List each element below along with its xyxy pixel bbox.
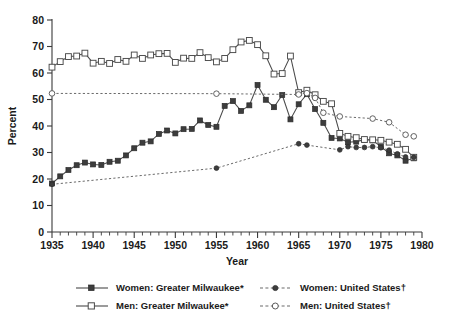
series-marker [181, 55, 187, 61]
series-marker [131, 52, 137, 58]
series-marker [74, 53, 80, 59]
series-marker [403, 132, 409, 138]
legend-entry-men-us[interactable]: Men: United States† [259, 300, 444, 312]
x-tick-label: 1970 [328, 239, 352, 251]
series-marker [403, 146, 409, 152]
series-marker [91, 162, 96, 167]
chart-series [49, 90, 416, 139]
series-marker [58, 174, 63, 179]
series-marker [98, 58, 104, 64]
legend-swatch-dashed-filled-circle [259, 282, 293, 294]
series-marker [288, 53, 294, 59]
series-marker [296, 141, 301, 146]
series-marker [345, 133, 351, 139]
series-marker [387, 148, 392, 153]
series-marker [107, 61, 113, 67]
series-marker [66, 54, 72, 60]
series-marker [189, 126, 194, 131]
series-marker [57, 59, 63, 65]
series-marker [272, 105, 277, 110]
series-marker [124, 153, 129, 158]
x-tick-label: 1965 [287, 239, 311, 251]
series-marker [378, 137, 384, 143]
series-marker [123, 58, 129, 64]
series-marker [280, 92, 285, 97]
series-marker [164, 50, 170, 56]
series-marker [148, 52, 154, 58]
series-marker [304, 143, 309, 148]
legend-entry-women-milwaukee[interactable]: Women: Greater Milwaukee* [75, 282, 259, 294]
x-tick-label: 1960 [246, 239, 270, 251]
series-marker [304, 90, 310, 96]
series-marker [165, 128, 170, 133]
series-marker [205, 55, 211, 61]
chart-plot-area: 0102030405060708019351940194519501955196… [0, 0, 454, 322]
y-tick-label: 80 [32, 14, 44, 26]
series-marker [230, 99, 235, 104]
series-marker [320, 98, 326, 104]
series-marker [156, 51, 162, 57]
series-marker [222, 56, 228, 62]
series-marker [255, 42, 261, 48]
chart-series [50, 82, 417, 186]
y-tick-label: 70 [32, 40, 44, 52]
legend-swatch-solid-open-square [75, 300, 109, 312]
series-marker [239, 108, 244, 113]
series-marker [66, 167, 71, 172]
series-marker [279, 71, 285, 77]
series-marker [337, 131, 343, 137]
series-marker [115, 158, 120, 163]
series-marker [370, 137, 376, 143]
series-marker [115, 57, 121, 63]
series-marker [181, 127, 186, 132]
legend-swatch-dashed-open-circle [259, 300, 293, 312]
x-tick-label: 1975 [369, 239, 393, 251]
series-marker [140, 140, 145, 145]
series-marker [238, 39, 244, 45]
series-marker [346, 144, 351, 149]
series-marker [82, 160, 87, 165]
legend-swatch-solid-filled-square [75, 282, 109, 294]
series-marker [386, 139, 392, 145]
x-axis-title: Year [226, 255, 248, 267]
series-marker [362, 145, 367, 150]
series-marker [90, 60, 96, 66]
series-marker [49, 91, 55, 97]
series-marker [246, 38, 252, 44]
series-marker [395, 151, 400, 156]
legend-entry-men-milwaukee[interactable]: Men: Greater Milwaukee* [75, 300, 259, 312]
legend-row-1: Women: Greater Milwaukee* Women: United … [0, 279, 454, 297]
series-marker [329, 135, 334, 140]
series-marker [230, 47, 236, 53]
legend-label-men-us: Men: United States† [300, 301, 391, 311]
series-marker [386, 119, 392, 125]
series-marker [329, 101, 335, 107]
series-marker [156, 131, 161, 136]
series-marker [321, 120, 326, 125]
series-marker [214, 124, 219, 129]
series-marker [214, 166, 219, 171]
series-marker [296, 92, 302, 98]
series-marker [82, 50, 88, 56]
y-tick-label: 40 [32, 120, 44, 132]
series-marker [271, 71, 277, 77]
series-marker [99, 162, 104, 167]
x-tick-label: 1980 [410, 239, 434, 251]
legend-entry-women-us[interactable]: Women: United States† [259, 282, 444, 294]
series-marker [49, 64, 55, 70]
series-marker [247, 103, 252, 108]
legend-label-men-milwaukee: Men: Greater Milwaukee* [116, 301, 228, 311]
chart-figure: 0102030405060708019351940194519501955196… [0, 0, 454, 322]
legend-row-2: Men: Greater Milwaukee* Men: United Stat… [0, 297, 454, 315]
series-marker [378, 145, 383, 150]
series-marker [107, 159, 112, 164]
y-tick-label: 50 [32, 93, 44, 105]
series-marker [288, 117, 293, 122]
series-marker [148, 139, 153, 144]
series-marker [321, 110, 327, 116]
series-marker [214, 59, 220, 65]
series-marker [214, 91, 220, 97]
legend-label-women-us: Women: United States† [300, 283, 406, 293]
series-marker [337, 147, 342, 152]
series-marker [313, 107, 318, 112]
